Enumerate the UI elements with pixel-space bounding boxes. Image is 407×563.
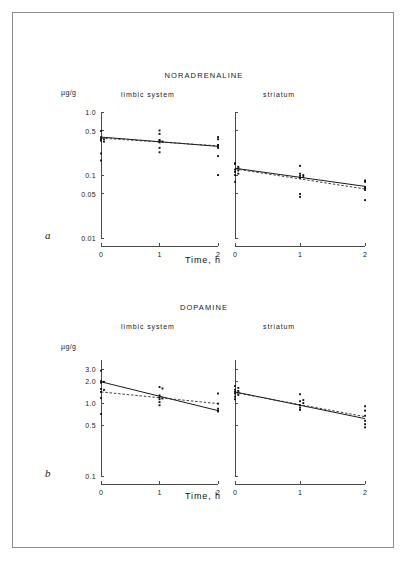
data-point (100, 391, 102, 393)
data-point (364, 420, 366, 422)
regression-line-dashed (235, 169, 365, 189)
data-point (217, 147, 219, 149)
data-point (159, 133, 161, 135)
y-tick-label: 1.0 (85, 109, 96, 116)
data-point (100, 160, 102, 162)
data-point (299, 175, 301, 177)
data-point (299, 404, 301, 406)
data-point (299, 407, 301, 409)
y-tick-label: 0.5 (85, 422, 96, 429)
data-point (159, 386, 161, 388)
data-point (100, 140, 102, 142)
data-point (364, 423, 366, 425)
data-point (364, 405, 366, 407)
data-point (217, 411, 219, 413)
data-point (299, 193, 301, 195)
data-point (237, 387, 239, 389)
data-point (364, 199, 366, 201)
data-point (217, 155, 219, 157)
data-point (299, 173, 301, 175)
panel-a-plot: 1.00.50.10.050.01012012 (13, 13, 395, 281)
data-point (234, 174, 236, 176)
data-point (217, 145, 219, 147)
data-point (217, 138, 219, 140)
data-point (162, 141, 164, 143)
y-tick-label: 2.0 (85, 378, 96, 385)
panel-b-dopamine: DOPAMINE limbic system striatum µg/g b 3… (13, 281, 395, 549)
data-point (100, 130, 102, 132)
y-tick-label: 0.01 (81, 235, 96, 242)
y-tick-label: 0.5 (85, 128, 96, 135)
data-point (234, 398, 236, 400)
data-point (302, 174, 304, 176)
data-point (100, 397, 102, 399)
data-point (217, 393, 219, 395)
panel-b-xaxis-title: Time, h (13, 491, 393, 501)
y-tick-label: 0.1 (85, 473, 96, 480)
figure-frame: NORADRENALINE limbic system striatum µg/… (12, 12, 394, 548)
data-point (159, 394, 161, 396)
data-point (237, 392, 239, 394)
data-point (299, 393, 301, 395)
data-point (364, 426, 366, 428)
data-point (237, 390, 239, 392)
data-point (234, 171, 236, 173)
data-point (159, 151, 161, 153)
data-point (237, 394, 239, 396)
data-point (162, 397, 164, 399)
data-point (364, 187, 366, 189)
data-point (234, 169, 236, 171)
data-point (103, 389, 105, 391)
data-point (237, 170, 239, 172)
y-tick-label: 0.1 (85, 172, 96, 179)
data-point (302, 399, 304, 401)
data-point (100, 413, 102, 415)
data-point (299, 400, 301, 402)
data-point (364, 189, 366, 191)
data-point (217, 403, 219, 405)
data-point (234, 181, 236, 183)
data-point (299, 409, 301, 411)
data-point (302, 402, 304, 404)
data-point (364, 415, 366, 417)
data-point (299, 177, 301, 179)
data-point (299, 196, 301, 198)
data-point (159, 130, 161, 132)
data-point (364, 410, 366, 412)
data-point (217, 408, 219, 410)
panel-a-xaxis-title: Time, h (13, 255, 393, 265)
data-point (100, 153, 102, 155)
data-point (234, 396, 236, 398)
data-point (103, 141, 105, 143)
data-point (162, 388, 164, 390)
y-tick-label: 0.05 (81, 191, 96, 198)
data-point (100, 382, 102, 384)
data-point (302, 176, 304, 178)
data-point (159, 147, 161, 149)
data-point (299, 165, 301, 167)
panel-b-plot: 3.02.01.00.50.1012012 (13, 281, 395, 549)
data-point (234, 389, 236, 391)
data-point (159, 404, 161, 406)
panel-a-noradrenaline: NORADRENALINE limbic system striatum µg/… (13, 13, 395, 281)
data-point (159, 396, 161, 398)
y-tick-label: 3.0 (85, 366, 96, 373)
data-point (234, 163, 236, 165)
data-point (103, 381, 105, 383)
data-point (364, 181, 366, 183)
data-point (159, 398, 161, 400)
data-point (234, 393, 236, 395)
data-point (237, 167, 239, 169)
data-point (100, 388, 102, 390)
data-point (159, 401, 161, 403)
data-point (159, 141, 161, 143)
data-point (100, 370, 102, 372)
data-point (103, 138, 105, 140)
y-tick-label: 1.0 (85, 400, 96, 407)
data-point (217, 136, 219, 138)
data-point (237, 173, 239, 175)
data-point (234, 385, 236, 387)
data-point (217, 174, 219, 176)
